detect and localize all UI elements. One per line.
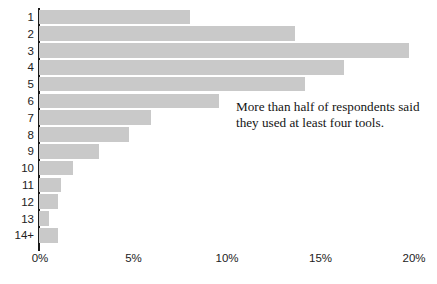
bar bbox=[39, 161, 73, 176]
y-axis-category-labels: 1 2 3 4 5 6 7 8 9 10 11 12 13 14+ bbox=[0, 9, 34, 244]
x-axis-tick-labels: 0%5%10%15%20% bbox=[0, 252, 437, 272]
bar-row bbox=[39, 194, 419, 211]
bar bbox=[39, 26, 295, 41]
y-axis-tick-label: 6 bbox=[0, 93, 34, 110]
y-axis-tick-label: 14+ bbox=[0, 227, 34, 244]
y-axis-tick-label: 1 bbox=[0, 9, 34, 26]
bar-row bbox=[39, 59, 419, 76]
bar bbox=[39, 211, 49, 226]
bar bbox=[39, 178, 61, 193]
bar-row bbox=[39, 211, 419, 228]
bar-row bbox=[39, 43, 419, 60]
bar-chart: 1 2 3 4 5 6 7 8 9 10 11 12 13 14+ 0%5%10… bbox=[0, 0, 437, 284]
bar bbox=[39, 10, 190, 25]
x-axis-tick-label: 0% bbox=[32, 252, 49, 264]
y-axis-tick-label: 7 bbox=[0, 110, 34, 127]
x-axis-tick-label: 10% bbox=[215, 252, 238, 264]
bar-row bbox=[39, 26, 419, 43]
bar-row bbox=[39, 160, 419, 177]
x-axis-tick-label: 15% bbox=[309, 252, 332, 264]
bar bbox=[39, 144, 99, 159]
bar bbox=[39, 110, 151, 125]
bar bbox=[39, 77, 305, 92]
bar-row bbox=[39, 76, 419, 93]
bar-row bbox=[39, 143, 419, 160]
bar-row bbox=[39, 177, 419, 194]
y-axis-tick-label: 3 bbox=[0, 43, 34, 60]
y-axis-tick-label: 13 bbox=[0, 211, 34, 228]
y-axis-tick-label: 9 bbox=[0, 143, 34, 160]
bar bbox=[39, 43, 409, 58]
bar bbox=[39, 228, 58, 243]
y-axis-tick-label: 2 bbox=[0, 26, 34, 43]
bar bbox=[39, 94, 219, 109]
chart-annotation: More than half of respondents said they … bbox=[236, 99, 422, 132]
x-axis-tick-label: 20% bbox=[402, 252, 425, 264]
bar bbox=[39, 127, 129, 142]
bar-row bbox=[39, 227, 419, 244]
y-axis-tick-label: 12 bbox=[0, 194, 34, 211]
x-axis-tick-label: 5% bbox=[125, 252, 142, 264]
plot-area: 1 2 3 4 5 6 7 8 9 10 11 12 13 14+ 0%5%10… bbox=[0, 0, 437, 284]
bar bbox=[39, 194, 58, 209]
y-axis-tick-label: 5 bbox=[0, 76, 34, 93]
y-axis-tick-label: 11 bbox=[0, 177, 34, 194]
bar-row bbox=[39, 9, 419, 26]
bar bbox=[39, 60, 344, 75]
y-axis-tick-label: 4 bbox=[0, 59, 34, 76]
y-axis-tick-label: 10 bbox=[0, 160, 34, 177]
y-axis-tick-label: 8 bbox=[0, 127, 34, 144]
